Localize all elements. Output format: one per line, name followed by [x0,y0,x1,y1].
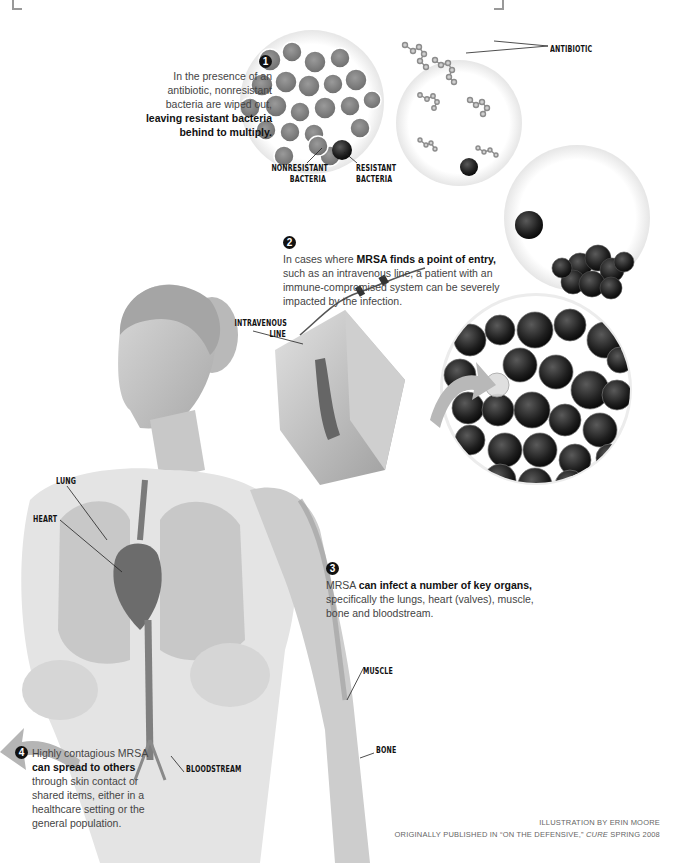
step-2-text: In cases where MRSA finds a point of ent… [283,252,543,308]
step-1-line: bacteria are wiped out, [130,97,272,111]
step-3-bold: can infect a number of key organs, [359,579,532,591]
step-4-badge: 4 [15,746,28,759]
label-iv-line1: INTRAVENOUS [235,318,286,329]
step-3-text: MRSA can infect a number of key organs, … [326,578,556,620]
step-3-badge: 3 [326,562,339,575]
step-4-line: shared items, either in a [32,788,162,802]
step-1-text: In the presence of an antibiotic, nonres… [130,69,272,139]
step-3-line: bone and bloodstream. [326,606,556,620]
label-nonresistant-line1: NONRESISTANT [271,163,326,174]
step-2-line: immune-compromised system can be severel… [283,280,543,294]
label-nonresistant-line2: BACTERIA [271,174,326,185]
step-3-line-1: MRSA can infect a number of key organs, [326,578,556,592]
label-iv-line2: LINE [235,329,286,340]
step-2-line: such as an intravenous line, a patient w… [283,266,543,280]
label-antibiotic: ANTIBIOTIC [550,44,592,55]
step-3-line: specifically the lungs, heart (valves), … [326,592,556,606]
step-1-line-bold: leaving resistant bacteria [130,111,272,125]
step-1-line-bold: behind to multiply. [130,125,272,139]
label-muscle: MUSCLE [363,666,393,677]
label-lung: LUNG [56,476,76,487]
label-resistant-line2: BACTERIA [356,174,396,185]
step-1-badge: 1 [259,55,272,68]
step-2-line-1: In cases where MRSA finds a point of ent… [283,252,543,266]
mrsa-colony-circle [440,293,633,502]
credit-publication: ORIGINALLY PUBLISHED IN “ON THE DEFENSIV… [395,830,660,839]
step-1-line: In the presence of an [130,69,272,83]
label-intravenous-line: INTRAVENOUS LINE [235,318,286,340]
label-resistant-bacteria: RESISTANT BACTERIA [356,163,396,185]
step-4-line: healthcare setting or the [32,802,162,816]
step-4-text: Highly contagious MRSA can spread to oth… [32,746,162,830]
step-2-bold: MRSA finds a point of entry, [357,253,496,265]
credit-illustrator: ILLUSTRATION BY ERIN MOORE [539,818,660,827]
step-2-prefix: In cases where [283,253,357,265]
step-1-line: antibiotic, nonresistant [130,83,272,97]
credit-pub-magazine: CURE [586,830,608,839]
step-3-prefix: MRSA [326,579,359,591]
step-4-line: through skin contact or [32,774,162,788]
step-2-line: impacted by the infection. [283,294,543,308]
step-4-prefix: Highly contagious MRSA [32,746,162,760]
credit-pub-suffix: SPRING 2008 [608,830,660,839]
step-2-badge: 2 [283,236,296,249]
label-heart: HEART [33,514,57,525]
label-resistant-line1: RESISTANT [356,163,396,174]
credit-pub-prefix: ORIGINALLY PUBLISHED IN “ON THE DEFENSIV… [395,830,586,839]
illustration-canvas [0,0,678,863]
label-bloodstream: BLOODSTREAM [186,764,242,775]
step-4-bold: can spread to others [32,760,162,774]
step-4-line: general population. [32,816,162,830]
label-nonresistant-bacteria: NONRESISTANT BACTERIA [271,163,326,185]
antibiotic-circle [396,43,522,187]
label-bone: BONE [376,745,396,756]
